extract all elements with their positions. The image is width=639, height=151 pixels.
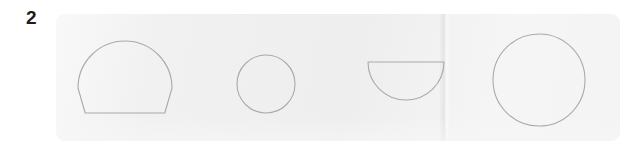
circle-large-outline (493, 34, 585, 126)
dome-outline (78, 41, 172, 113)
shape-semicircle (368, 62, 444, 100)
shape-outlines-group (0, 0, 639, 151)
shape-circle-small (237, 55, 295, 113)
circle-small-outline (237, 55, 295, 113)
shape-dome (78, 41, 172, 113)
shape-circle-large (493, 34, 585, 126)
figure-container: 2 (0, 0, 639, 151)
semicircle-outline (368, 62, 444, 100)
